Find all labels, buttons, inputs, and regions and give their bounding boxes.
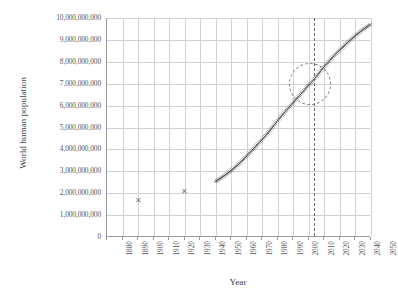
x-tick-label: 1960 [250,241,258,275]
gridline-vertical [371,18,372,236]
x-tick-label: 2020 [343,241,351,275]
x-tick-label: 1910 [173,241,181,275]
x-tick-label: 1890 [142,241,150,275]
series-canvas [107,18,371,237]
x-tick [308,237,309,240]
x-tick [153,237,154,240]
x-tick-label: 1900 [157,241,165,275]
x-tick-label: 1950 [235,241,243,275]
x-tick [370,237,371,240]
x-tick-label: 2050 [390,241,398,275]
present-year-line [314,18,315,236]
x-tick-label: 1920 [188,241,196,275]
x-tick [277,237,278,240]
x-tick [246,237,247,240]
x-tick [230,237,231,240]
x-tick [137,237,138,240]
x-tick [292,237,293,240]
x-tick [215,237,216,240]
population-series [214,23,371,183]
historical-data-marker: ✕ [135,197,142,205]
x-tick-label: 1980 [281,241,289,275]
x-tick-label: 1940 [219,241,227,275]
x-tick [122,237,123,240]
x-tick-label: 1930 [204,241,212,275]
x-tick [323,237,324,240]
seven-billion-circle [289,63,331,105]
x-tick-label: 2030 [359,241,367,275]
x-tick [106,237,107,240]
x-tick [339,237,340,240]
x-tick-label: 1970 [266,241,274,275]
x-tick [261,237,262,240]
x-axis-title: Year [106,277,370,287]
plot-area: ✕✕ [106,18,370,237]
x-tick-label: 2040 [374,241,382,275]
x-tick-label: 2010 [328,241,336,275]
x-tick-label: 2000 [312,241,320,275]
x-tick-label: 1880 [126,241,134,275]
x-tick [184,237,185,240]
x-tick-label: 1990 [297,241,305,275]
x-tick [354,237,355,240]
historical-data-marker: ✕ [181,188,188,196]
x-tick [199,237,200,240]
x-tick [168,237,169,240]
